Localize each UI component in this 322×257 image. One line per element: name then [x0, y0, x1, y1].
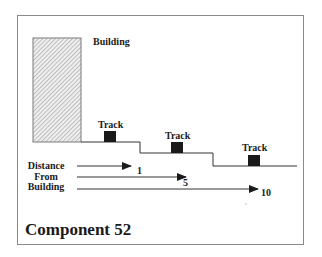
- distance-value-1: 1: [137, 165, 142, 176]
- distance-value-10: 10: [261, 187, 271, 198]
- building-shape: [33, 38, 81, 142]
- building-label: Building: [93, 36, 130, 47]
- diagram-canvas: [0, 0, 322, 257]
- track-box-2: [171, 142, 183, 153]
- distance-value-5: 5: [183, 177, 188, 188]
- component-title: Component 52: [25, 220, 131, 240]
- track-label-1: Track: [98, 119, 123, 130]
- track-box-1: [104, 131, 116, 142]
- distance-from-building-label: Distance From Building: [24, 161, 68, 193]
- distance-label-line-3: Building: [24, 182, 68, 193]
- track-label-3: Track: [242, 142, 267, 153]
- track-box-3: [248, 155, 260, 166]
- distance-label-line-1: Distance: [24, 161, 68, 172]
- track-label-2: Track: [165, 130, 190, 141]
